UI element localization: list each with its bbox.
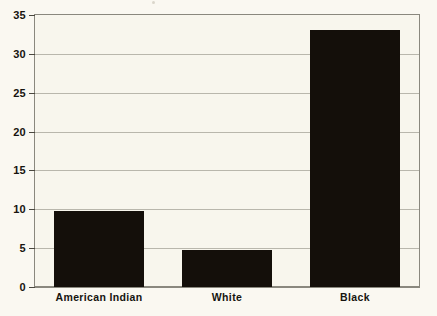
- y-axis-tick-0: [29, 287, 35, 288]
- y-axis-label-25: 25: [13, 87, 26, 98]
- bar-chart: 05101520253035 American IndianWhiteBlack: [0, 0, 437, 316]
- y-axis-label-10: 10: [13, 204, 26, 215]
- scan-artifact-speck: [152, 1, 155, 4]
- y-axis-tick-25: [29, 93, 35, 94]
- y-axis-label-35: 35: [13, 10, 26, 21]
- y-axis-label-30: 30: [13, 48, 26, 59]
- y-axis-tick-10: [29, 209, 35, 210]
- y-axis-tick-20: [29, 132, 35, 133]
- plot-area: 05101520253035: [34, 14, 420, 288]
- x-axis-label-black: Black: [340, 292, 370, 303]
- y-axis-label-0: 0: [20, 282, 26, 293]
- y-axis-tick-5: [29, 248, 35, 249]
- y-axis-label-5: 5: [20, 243, 26, 254]
- bar-american-indian: [54, 211, 144, 287]
- y-axis-label-20: 20: [13, 126, 26, 137]
- x-axis-label-white: White: [212, 292, 242, 303]
- plot-inner: 05101520253035: [35, 15, 419, 287]
- y-axis-tick-15: [29, 170, 35, 171]
- bar-white: [182, 250, 272, 287]
- y-axis-label-15: 15: [13, 165, 26, 176]
- y-axis-tick-35: [29, 15, 35, 16]
- x-axis-label-american-indian: American Indian: [56, 292, 143, 303]
- bar-black: [310, 30, 400, 287]
- y-axis-tick-30: [29, 54, 35, 55]
